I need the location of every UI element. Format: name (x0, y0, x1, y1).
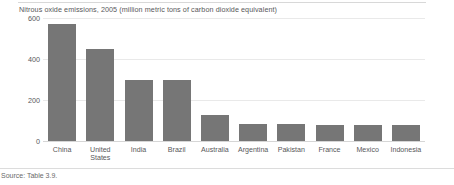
x-axis-tick-label-line: Indonesia (383, 146, 429, 154)
bar (48, 24, 76, 141)
top-divider (18, 2, 426, 3)
x-axis-tick-label-line: States (77, 154, 123, 162)
bottom-divider (0, 168, 454, 169)
source-note: Source: Table 3.9. (1, 172, 57, 179)
y-axis-tick-label: 400 (2, 55, 40, 64)
chart-title: Nitrous oxide emissions, 2005 (million m… (19, 5, 277, 14)
bar (316, 125, 344, 141)
plot-area (43, 18, 425, 142)
bar (277, 124, 305, 141)
bar (354, 125, 382, 141)
bar (86, 49, 114, 141)
x-axis-tick-label: Indonesia (383, 146, 429, 154)
bar (239, 124, 267, 141)
x-axis-labels: ChinaUnitedStatesIndiaBrazilAustraliaArg… (43, 146, 425, 176)
y-axis-tick-label: 0 (2, 137, 40, 146)
bar (201, 115, 229, 141)
bar (163, 80, 191, 142)
bar (392, 125, 420, 141)
plot-wrapper: 0200400600 (0, 18, 454, 144)
chart-figure: Nitrous oxide emissions, 2005 (million m… (0, 0, 454, 185)
y-axis-tick-label: 200 (2, 96, 40, 105)
bar (125, 80, 153, 142)
x-axis-baseline (43, 141, 425, 142)
y-axis-tick-label: 600 (2, 14, 40, 23)
bar-series (43, 18, 425, 141)
y-axis-labels: 0200400600 (0, 18, 40, 144)
